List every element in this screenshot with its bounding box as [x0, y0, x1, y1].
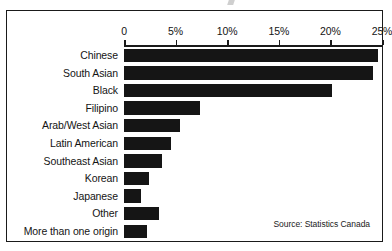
category-label: Japanese [73, 189, 118, 203]
category-label: Black [93, 83, 118, 97]
category-label: Other [92, 206, 118, 220]
category-label: Korean [85, 171, 118, 185]
bar [124, 225, 147, 239]
category-label: South Asian [63, 66, 118, 80]
bar-row: Latin American [124, 135, 382, 153]
bar [124, 49, 378, 63]
x-tick-label: 5% [168, 25, 183, 37]
bar-row: South Asian [124, 65, 382, 83]
x-tick-label: 20% [320, 25, 341, 37]
category-label: More than one origin [24, 224, 118, 238]
category-label: Filipino [86, 101, 118, 115]
bar [124, 154, 162, 168]
x-tick-mark [227, 40, 229, 45]
bar [124, 101, 200, 115]
bar-row: Southeast Asian [124, 153, 382, 171]
scan-artifact-mark [227, 0, 235, 5]
bar [124, 189, 141, 203]
bar-row: Chinese [124, 47, 382, 65]
category-label: Chinese [80, 48, 118, 62]
x-tick-mark [330, 40, 332, 45]
bar [124, 66, 373, 80]
bar-row: Arab/West Asian [124, 117, 382, 135]
bar [124, 84, 332, 98]
plot-area: 05%10%15%20%25% ChineseSouth AsianBlackF… [124, 45, 382, 241]
x-tick-mark [176, 40, 178, 45]
bar-row: Korean [124, 170, 382, 188]
x-tick-label: 15% [268, 25, 289, 37]
bar-row: Japanese [124, 188, 382, 206]
bar [124, 137, 171, 151]
x-tick-label: 25% [372, 25, 392, 37]
bar [124, 207, 159, 221]
source-note: Source: Statistics Canada [273, 219, 370, 229]
bar-row: Filipino [124, 100, 382, 118]
x-tick-mark [382, 40, 384, 45]
x-tick-mark [124, 40, 126, 45]
category-label: Latin American [50, 136, 118, 150]
chart-frame: 05%10%15%20%25% ChineseSouth AsianBlackF… [6, 10, 383, 242]
bar [124, 172, 149, 186]
category-label: Arab/West Asian [42, 118, 118, 132]
category-label: Southeast Asian [44, 154, 118, 168]
x-tick-label: 0 [121, 25, 127, 37]
x-tick-label: 10% [217, 25, 238, 37]
x-tick-mark [279, 40, 281, 45]
bar [124, 119, 180, 133]
bar-row: Black [124, 82, 382, 100]
